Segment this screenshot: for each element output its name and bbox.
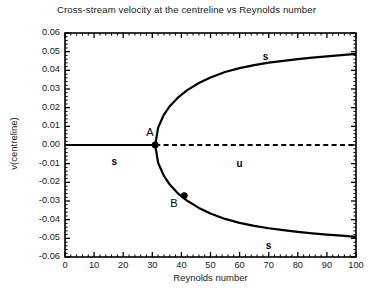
marker-point-B [181, 192, 188, 199]
data-point-markers [152, 142, 188, 199]
plot-canvas [0, 0, 373, 289]
curve-lower-stable-branch [155, 145, 356, 237]
curve-upper-stable-branch [155, 54, 356, 145]
marker-point-A [152, 142, 159, 149]
chart-figure: Cross-stream velocity at the centreline … [0, 0, 373, 289]
data-curves [65, 54, 356, 237]
